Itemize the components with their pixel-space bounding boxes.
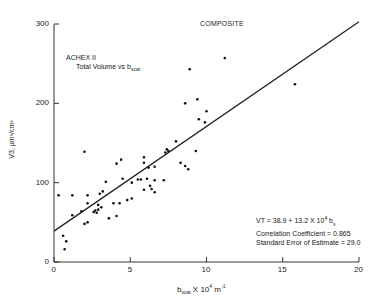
data-point	[184, 165, 187, 168]
data-point	[188, 68, 191, 71]
data-point	[115, 162, 118, 165]
data-point	[205, 110, 208, 113]
data-point	[153, 191, 156, 194]
data-point	[196, 98, 199, 101]
y-tick-label: 100	[36, 178, 49, 187]
chart-title: COMPOSITE	[200, 20, 244, 27]
data-point	[187, 168, 190, 171]
data-point	[97, 204, 100, 207]
data-point	[153, 179, 156, 182]
data-point	[108, 217, 111, 220]
data-point	[57, 194, 60, 197]
data-point	[118, 202, 121, 205]
y-axis-label: V3, µm³/cm³	[8, 120, 15, 158]
data-point	[224, 57, 227, 60]
regression-line	[54, 22, 359, 231]
data-point	[143, 156, 146, 159]
data-point	[97, 208, 100, 211]
chart-subtitle: Total Volume vs bscat	[76, 62, 140, 74]
data-point	[130, 197, 133, 200]
data-point	[175, 140, 178, 143]
data-point	[149, 185, 152, 188]
x-tick-label: 0	[52, 265, 56, 274]
data-point	[294, 83, 297, 86]
data-point	[204, 121, 207, 124]
data-point	[126, 199, 129, 202]
regression-equation: VT = 38.9 + 13.2 X 104 bs	[256, 214, 360, 229]
data-point	[164, 151, 167, 154]
data-point	[130, 181, 133, 184]
data-point	[140, 178, 143, 181]
standard-error: Standard Error of Estimate = 29.0	[256, 238, 360, 247]
data-point	[112, 202, 115, 205]
data-point	[198, 118, 201, 121]
x-tick-label: 10	[202, 265, 211, 274]
data-point	[80, 210, 83, 213]
correlation-coefficient: Correlation Coefficient = 0.865	[256, 229, 360, 238]
data-point	[62, 235, 65, 238]
data-point	[146, 177, 149, 180]
data-point	[184, 102, 187, 105]
data-point	[120, 158, 123, 161]
data-point	[166, 148, 169, 151]
data-point	[98, 192, 101, 195]
data-point	[105, 181, 108, 184]
data-point	[65, 240, 68, 243]
data-point	[143, 162, 146, 165]
scatter-chart	[0, 0, 384, 307]
data-point	[163, 179, 166, 182]
data-point	[121, 177, 124, 180]
data-point	[115, 215, 118, 218]
data-point	[94, 209, 97, 212]
data-point	[86, 221, 89, 224]
y-tick-label: 0	[45, 257, 49, 266]
data-point	[143, 189, 146, 192]
data-point	[83, 150, 86, 153]
x-tick-label: 20	[354, 265, 363, 274]
y-tick-label: 200	[36, 98, 49, 107]
data-point	[63, 248, 66, 251]
data-point	[83, 223, 86, 226]
data-point	[71, 214, 74, 217]
data-point	[100, 206, 103, 209]
data-point	[150, 188, 153, 191]
data-point	[179, 162, 182, 165]
regression-annotation: VT = 38.9 + 13.2 X 104 bs Correlation Co…	[256, 214, 360, 247]
dataset-label: ACHEX II	[66, 53, 96, 62]
y-tick-label: 300	[36, 19, 49, 28]
data-point	[71, 194, 74, 197]
x-tick-label: 15	[278, 265, 287, 274]
data-point	[95, 212, 98, 215]
data-point	[195, 150, 198, 153]
data-point	[86, 194, 89, 197]
data-point	[153, 166, 156, 169]
x-axis-label: bscat X 104 m-1	[177, 283, 225, 295]
data-point	[86, 202, 89, 205]
x-tick-label: 5	[128, 265, 132, 274]
data-point	[147, 166, 150, 169]
data-point	[102, 190, 105, 193]
data-point	[137, 178, 140, 181]
